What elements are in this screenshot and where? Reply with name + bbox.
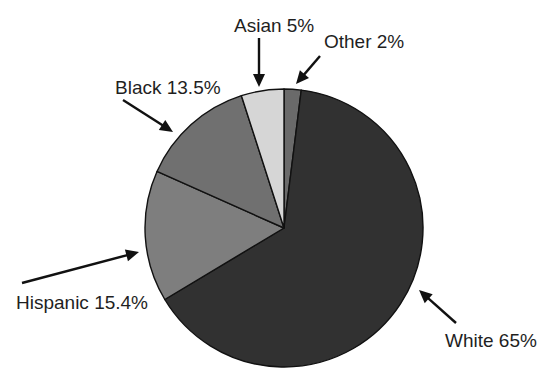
arrow-black-line: [123, 100, 164, 126]
label-white: White 65%: [445, 330, 537, 351]
arrow-head-icon: [125, 250, 139, 262]
arrow-white-line: [427, 297, 456, 323]
label-black: Black 13.5%: [115, 77, 221, 98]
label-hispanic: Hispanic 15.4%: [16, 292, 148, 313]
arrow-head-icon: [159, 120, 173, 132]
pie-slices: [145, 89, 423, 367]
label-asian: Asian 5%: [234, 15, 314, 36]
arrow-hispanic-line: [22, 255, 128, 283]
arrow-other-line: [303, 56, 320, 76]
pie-chart: Other 2% White 65% Hispanic 15.4% Black …: [0, 0, 556, 380]
label-other: Other 2%: [324, 31, 404, 52]
arrow-head-icon: [253, 74, 265, 87]
